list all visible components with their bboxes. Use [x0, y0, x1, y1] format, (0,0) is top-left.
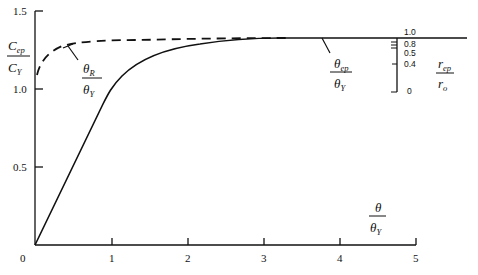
svg-text:CY: CY	[8, 60, 23, 77]
secondary-scale-label: rep ro	[436, 56, 454, 93]
y-tick-1.0: 1.0	[13, 83, 27, 95]
y-tick-0.5: 0.5	[13, 161, 27, 173]
x-axis-label: θ θY	[369, 200, 386, 237]
svg-text:Cep: Cep	[8, 38, 25, 55]
origin-label: 0	[20, 252, 26, 264]
x-tick-3: 3	[261, 252, 267, 264]
svg-text:0.5: 0.5	[404, 48, 416, 58]
x-tick-5: 5	[413, 252, 419, 264]
chart-canvas: 1.5 1.0 0.5 0 1 2 3 4 5 Cep CY θ θY θR θ…	[0, 0, 478, 275]
svg-text:1.0: 1.0	[404, 27, 416, 37]
svg-text:θY: θY	[370, 220, 382, 237]
svg-text:θR: θR	[83, 61, 95, 78]
annotation-theta-r: θR θY	[63, 44, 102, 99]
svg-text:θ: θ	[375, 200, 382, 215]
x-tick-4: 4	[337, 252, 343, 264]
svg-text:θY: θY	[83, 82, 95, 99]
svg-text:θY: θY	[334, 76, 346, 93]
x-tick-1: 1	[109, 252, 115, 264]
svg-text:rep: rep	[438, 56, 451, 73]
series-theta-ep-curve	[35, 38, 467, 245]
svg-text:0.4: 0.4	[404, 59, 416, 69]
annotation-theta-ep: θep θY	[322, 38, 352, 93]
y-axis-label: Cep CY	[7, 38, 30, 77]
svg-text:ro: ro	[438, 76, 447, 93]
x-tick-2: 2	[185, 252, 191, 264]
svg-text:0: 0	[407, 86, 412, 96]
svg-text:θep: θep	[334, 56, 348, 73]
y-tick-1.5: 1.5	[13, 5, 27, 17]
